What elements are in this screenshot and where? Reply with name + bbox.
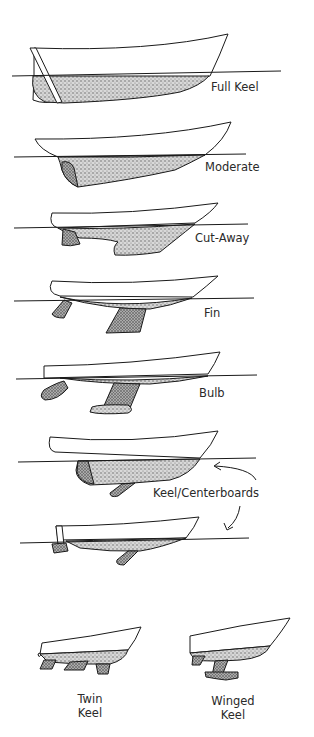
label-twin-keel-line2: Keel	[70, 706, 110, 720]
keel-centerboard-boat-2	[20, 506, 249, 565]
label-twin-keel: Twin Keel	[70, 692, 110, 720]
label-winged-keel: Winged Keel	[208, 694, 258, 722]
twin-keel-boat	[38, 627, 141, 674]
cut-away-keel-boat	[14, 203, 248, 255]
label-winged-keel-line1: Winged	[208, 694, 258, 708]
label-fin: Fin	[204, 306, 220, 320]
moderate-keel-boat	[14, 122, 246, 187]
bulb-keel-boat	[16, 352, 257, 414]
label-twin-keel-line1: Twin	[70, 692, 110, 706]
winged-keel-boat	[190, 618, 290, 680]
fin-keel-boat	[14, 276, 254, 333]
label-winged-keel-line2: Keel	[208, 708, 258, 722]
label-full-keel: Full Keel	[211, 80, 259, 94]
label-moderate: Moderate	[205, 160, 260, 174]
label-cut-away: Cut-Away	[195, 231, 249, 245]
label-keel-centerboards: Keel/Centerboards	[153, 486, 259, 500]
label-bulb: Bulb	[199, 386, 225, 400]
keel-types-diagram	[0, 0, 314, 737]
